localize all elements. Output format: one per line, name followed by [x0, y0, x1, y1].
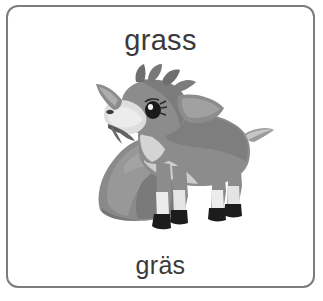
goat-grazing-illustration: [78, 62, 278, 242]
vocabulary-flashcard: grass: [6, 5, 315, 288]
swedish-word-label: gräs: [8, 250, 313, 280]
english-word-label: grass: [8, 23, 313, 57]
